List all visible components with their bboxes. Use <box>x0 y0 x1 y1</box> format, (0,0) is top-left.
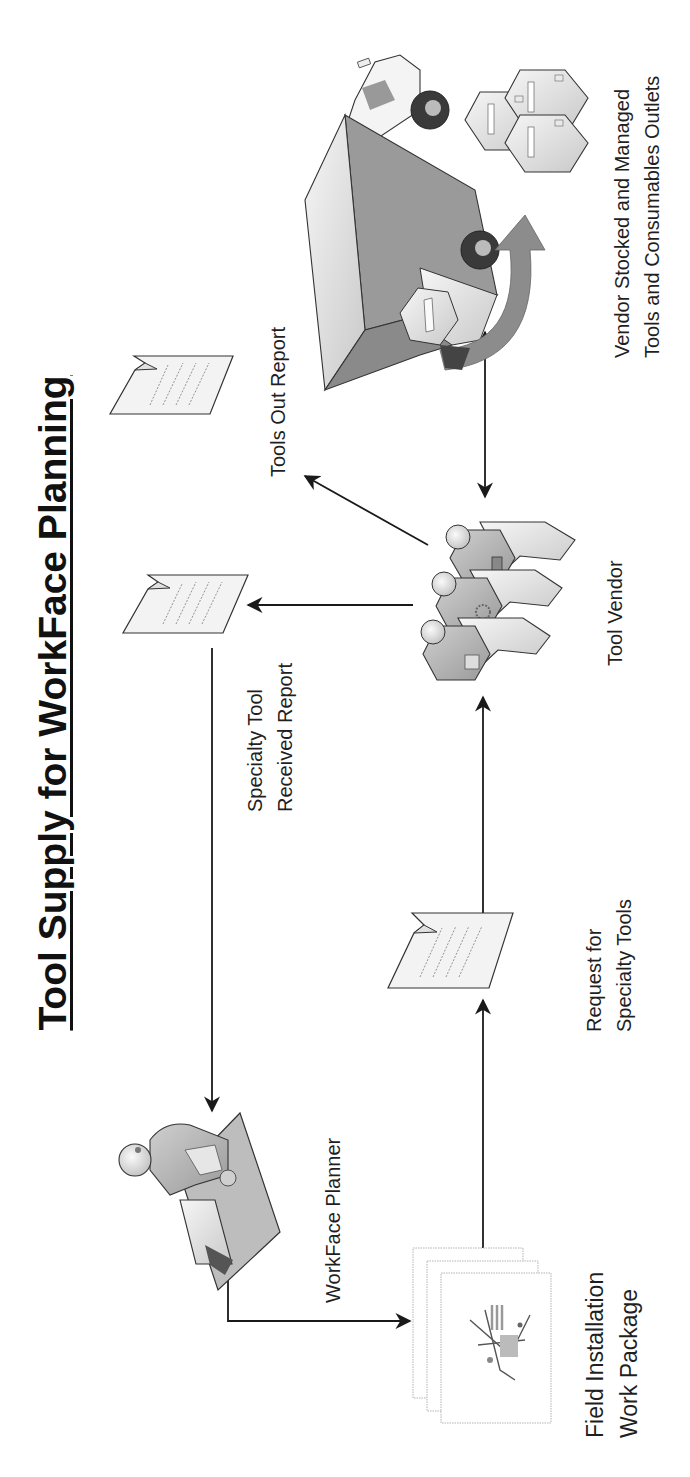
request-label-line-2: Specialty Tools <box>609 899 639 1032</box>
edge-planner-to-package <box>228 1276 410 1321</box>
workface-planner-label: WorkFace Planner <box>322 1138 345 1303</box>
field-installation-work-package-label: Field Installation Work Package <box>578 1272 646 1438</box>
specialty-report-label-line-1: Specialty Tool <box>240 663 270 812</box>
vendor-outlets-label: Vendor Stocked and Managed Tools and Con… <box>607 76 667 358</box>
tool-vendor-people-group-icon <box>421 522 575 680</box>
edge-vendor-to-tools-out <box>305 476 428 545</box>
vendor-outlets-label-line-1: Vendor Stocked and Managed <box>607 76 637 358</box>
specialty-tool-received-report-document-icon <box>123 575 248 633</box>
request-for-specialty-tools-label: Request for Specialty Tools <box>579 899 639 1032</box>
tools-out-report-document-icon <box>110 356 233 414</box>
field-installation-label-line-1: Field Installation <box>578 1272 612 1438</box>
vendor-outlets-delivery-truck-icon <box>305 55 588 390</box>
field-installation-label-line-2: Work Package <box>612 1272 646 1438</box>
workface-planner-person-at-desk-icon <box>119 1113 280 1290</box>
page-title: Tool Supply for WorkFace Planning <box>33 292 72 1114</box>
diagram-canvas <box>0 0 690 1477</box>
work-package-document-stack-icon <box>413 1248 551 1423</box>
vendor-outlets-label-line-2: Tools and Consumables Outlets <box>637 76 667 358</box>
request-label-line-1: Request for <box>579 899 609 1032</box>
request-for-specialty-tools-document-icon <box>388 913 513 988</box>
specialty-tool-received-report-label: Specialty Tool Received Report <box>240 663 300 812</box>
tool-vendor-label: Tool Vendor <box>604 560 627 666</box>
specialty-report-label-line-2: Received Report <box>270 663 300 812</box>
tools-out-report-label: Tools Out Report <box>267 327 290 477</box>
